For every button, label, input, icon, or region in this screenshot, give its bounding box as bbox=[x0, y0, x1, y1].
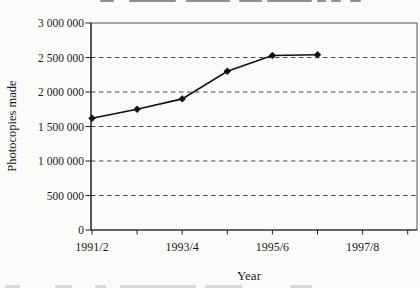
text-remnant-bar bbox=[55, 285, 72, 288]
data-point-marker bbox=[269, 52, 276, 59]
photocopies-line-chart: 0500 0001 000 0001 500 0002 000 0002 500… bbox=[0, 0, 420, 288]
text-remnant-bar bbox=[129, 0, 176, 2]
text-remnant-bar bbox=[120, 285, 196, 288]
x-tick-label: 1993/4 bbox=[166, 240, 199, 254]
x-axis-title: Year bbox=[237, 268, 261, 284]
y-tick-label: 2 000 000 bbox=[38, 86, 84, 98]
x-tick-label: 1991/2 bbox=[75, 240, 108, 254]
data-point-marker bbox=[314, 51, 321, 58]
data-point-marker bbox=[224, 68, 231, 75]
data-point-marker bbox=[179, 95, 186, 102]
series-line bbox=[92, 55, 318, 118]
text-remnant-bar bbox=[290, 285, 312, 288]
text-remnant-bar bbox=[100, 0, 114, 2]
data-point-marker bbox=[133, 106, 140, 113]
text-remnant-bar bbox=[95, 285, 106, 288]
y-axis-title: Photocopies made bbox=[5, 80, 20, 171]
text-remnant-bar bbox=[239, 0, 262, 2]
x-tick-label: 1995/6 bbox=[256, 240, 289, 254]
x-tick-label: 1997/8 bbox=[346, 240, 379, 254]
data-point-marker bbox=[88, 115, 95, 122]
chart-page: Photocopies made 0500 0001 000 0001 500 … bbox=[0, 0, 420, 288]
text-remnant-bar bbox=[186, 0, 230, 2]
text-remnant-bar bbox=[205, 285, 242, 288]
y-tick-label: 500 000 bbox=[47, 190, 85, 202]
text-remnant-bar bbox=[5, 285, 20, 288]
y-tick-label: 0 bbox=[78, 224, 84, 236]
text-remnant-bar bbox=[331, 0, 341, 2]
text-remnant-bar bbox=[350, 0, 361, 2]
y-tick-label: 2 500 000 bbox=[38, 52, 84, 64]
y-tick-label: 1 500 000 bbox=[38, 121, 84, 133]
y-tick-label: 1 000 000 bbox=[38, 155, 84, 167]
y-tick-label: 3 000 000 bbox=[38, 17, 84, 29]
cropped-text-remnant-top bbox=[0, 0, 420, 3]
text-remnant-bar bbox=[267, 0, 312, 2]
text-remnant-bar bbox=[317, 0, 326, 2]
